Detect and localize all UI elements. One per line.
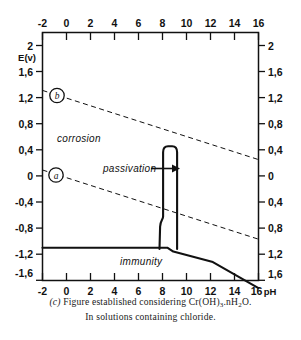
top-tick-label-0: -2	[38, 17, 47, 29]
top-tick-label-7: 12	[205, 17, 217, 29]
caption-index: (c)	[49, 296, 60, 307]
series-line-a-hydrogen-equilibrium	[43, 170, 259, 239]
left-tick-label-6: -0,4	[15, 196, 33, 208]
top-tick-label-8: 14	[229, 17, 241, 29]
series-line-b-oxygen-equilibrium	[43, 90, 259, 159]
y-axis-unit-label: E(v)	[18, 52, 36, 63]
right-tick-label-8: 1,2	[268, 248, 283, 260]
marker-a: a	[49, 168, 63, 182]
top-tick-label-5: 8	[160, 17, 166, 29]
right-tick-label-7: 0,8	[268, 222, 283, 234]
region-label-passivation: passivation	[102, 163, 156, 174]
top-axis-tick-labels: -2 0 2 4 6 8 10 12 14 16	[38, 17, 265, 29]
caption-text-end: O.	[242, 296, 252, 307]
left-tick-label-4: 0,4	[18, 144, 33, 156]
top-tick-label-4: 6	[136, 17, 142, 29]
top-axis-ticks	[43, 33, 259, 41]
series-immunity-upper-boundary	[43, 248, 259, 289]
right-tick-label-2: 1,2	[268, 92, 283, 104]
right-tick-label-5: 0	[268, 170, 274, 182]
marker-b-label: b	[55, 91, 60, 101]
caption-text-mid: .nH	[223, 296, 238, 307]
caption-line-1: (c) Figure established considering Cr(OH…	[0, 296, 301, 311]
caption-text-1: Figure established considering Cr(OH)	[61, 296, 220, 307]
region-label-immunity: immunity	[120, 256, 163, 267]
left-tick-label-3: 0,8	[18, 118, 33, 130]
right-tick-label-4: 0,4	[268, 144, 283, 156]
top-tick-label-3: 4	[112, 17, 118, 29]
right-tick-label-3: 0,8	[268, 118, 283, 130]
region-label-corrosion: corrosion	[57, 133, 101, 144]
pourbaix-diagram-figure: -2 0 2 4 6 8 10 12 14 16 -2 0 2 4 6 8 10…	[0, 0, 301, 340]
top-tick-label-1: 0	[64, 17, 70, 29]
right-tick-label-9: 1,6	[268, 268, 283, 280]
pourbaix-chart-svg: -2 0 2 4 6 8 10 12 14 16 -2 0 2 4 6 8 10…	[0, 0, 301, 340]
left-tick-label-8: -1,2	[15, 248, 33, 260]
left-tick-label-0: 2	[27, 40, 33, 52]
figure-caption: (c) Figure established considering Cr(OH…	[0, 296, 301, 323]
left-tick-label-5: 0	[27, 170, 33, 182]
left-tick-label-1: 1,6	[18, 66, 33, 78]
marker-a-label: a	[54, 171, 59, 181]
top-tick-label-2: 2	[88, 17, 94, 29]
left-tick-label-9: -1,6	[15, 267, 33, 279]
caption-line-2: In solutions containing chloride.	[0, 311, 301, 323]
bottom-axis-ticks	[43, 273, 259, 281]
marker-b: b	[50, 88, 64, 102]
top-tick-label-9: 16	[253, 17, 265, 29]
right-tick-label-0: 2	[268, 40, 274, 52]
plot-frame	[43, 33, 259, 281]
right-tick-label-1: 1,6	[268, 66, 283, 78]
right-axis-tick-labels: 2 1,6 1,2 0,8 0,4 0 0,4 0,8 1,2 1,6	[268, 40, 283, 281]
right-axis-ticks	[259, 46, 266, 281]
right-tick-label-6: 0,4	[268, 196, 283, 208]
left-tick-label-7: -0,8	[15, 222, 33, 234]
top-tick-label-6: 10	[181, 17, 193, 29]
left-axis-ticks	[36, 46, 43, 281]
series-passivation-boundary	[160, 146, 178, 249]
left-axis-tick-labels: 2 E(v) 1,6 1,2 0,8 0,4 0 -0,4 -0,8 -1,2 …	[15, 40, 36, 280]
left-tick-label-2: 1,2	[18, 92, 33, 104]
